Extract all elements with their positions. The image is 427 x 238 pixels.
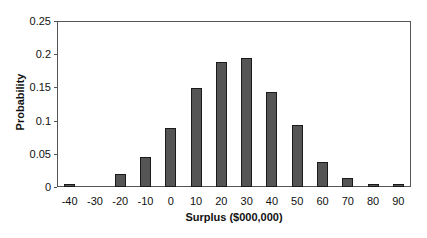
y-tick-mark	[54, 54, 57, 55]
bar-70	[342, 178, 353, 187]
y-tick-label: 0.15	[30, 81, 51, 93]
bar-0	[165, 128, 176, 187]
y-tick-mark	[54, 187, 57, 188]
bar-90	[393, 184, 404, 187]
bar--10	[140, 157, 151, 187]
y-tick-label: 0.05	[30, 148, 51, 160]
y-tick-mark	[54, 87, 57, 88]
probability-bar-chart: 00.050.10.150.20.25 -40-30-20-1001020304…	[0, 0, 427, 238]
y-tick-label: 0.2	[36, 48, 51, 60]
bar-50	[292, 125, 303, 187]
bar-10	[191, 88, 202, 187]
x-tick-label: 90	[383, 195, 413, 207]
y-tick-label: 0.25	[30, 15, 51, 27]
bar--40	[64, 184, 75, 187]
x-axis-label: Surplus ($000,000)	[185, 211, 282, 223]
bar-80	[368, 184, 379, 187]
y-tick-mark	[54, 154, 57, 155]
y-tick-mark	[54, 21, 57, 22]
bar--20	[115, 174, 126, 187]
bar-60	[317, 162, 328, 187]
y-axis-label: Probability	[14, 74, 26, 131]
bar-20	[216, 62, 227, 187]
y-tick-mark	[54, 121, 57, 122]
bar-30	[241, 58, 252, 187]
bar-40	[266, 92, 277, 187]
y-tick-label: 0.1	[36, 115, 51, 127]
y-tick-label: 0	[45, 181, 51, 193]
plot-area	[57, 21, 411, 187]
